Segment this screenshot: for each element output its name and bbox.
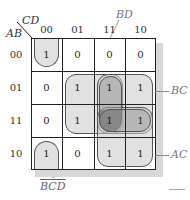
cell-01-00: 0 xyxy=(31,71,62,104)
row-header-11: 11 xyxy=(6,115,26,126)
cell-00-11: 0 xyxy=(94,38,125,71)
col-header-01: 01 xyxy=(62,24,93,35)
group-label-bd: BD xyxy=(116,8,133,21)
cell-11-01: 1 xyxy=(62,104,93,137)
cell-00-10: 0 xyxy=(125,38,156,71)
cell-10-10: 1 xyxy=(125,137,156,170)
cell-11-00: 0 xyxy=(31,104,62,137)
cell-00-01: 0 xyxy=(62,38,93,71)
row-header-10: 10 xyxy=(6,148,26,159)
cell-11-10: 1 xyxy=(125,104,156,137)
group-label-ac: AC xyxy=(171,148,187,161)
partial-label-mark xyxy=(169,189,185,190)
col-header-11: 11 xyxy=(94,24,125,35)
cell-01-01: 1 xyxy=(62,71,93,104)
row-header-00: 00 xyxy=(6,49,26,60)
cell-00-00: 1 xyxy=(31,38,62,71)
cell-01-11: 1 xyxy=(94,71,125,104)
cell-10-11: 1 xyxy=(94,137,125,170)
col-header-10: 10 xyxy=(125,24,156,35)
row-header-01: 01 xyxy=(6,82,26,93)
leader-ac xyxy=(155,155,169,156)
cell-11-11: 1 xyxy=(94,104,125,137)
leader-bc xyxy=(155,91,169,92)
cell-10-00: 1 xyxy=(31,137,62,170)
group-label-bc: BC xyxy=(171,84,188,97)
col-header-00: 00 xyxy=(31,24,62,35)
cell-10-01: 0 xyxy=(62,137,93,170)
cell-01-10: 1 xyxy=(125,71,156,104)
group-label-bcd: BCD xyxy=(40,180,66,193)
row-var-label: AB xyxy=(6,27,22,40)
